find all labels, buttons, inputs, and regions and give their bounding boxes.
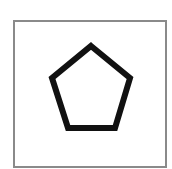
pentagon-shape [52, 46, 130, 128]
figure-canvas [0, 0, 172, 169]
figure-svg [0, 0, 172, 169]
